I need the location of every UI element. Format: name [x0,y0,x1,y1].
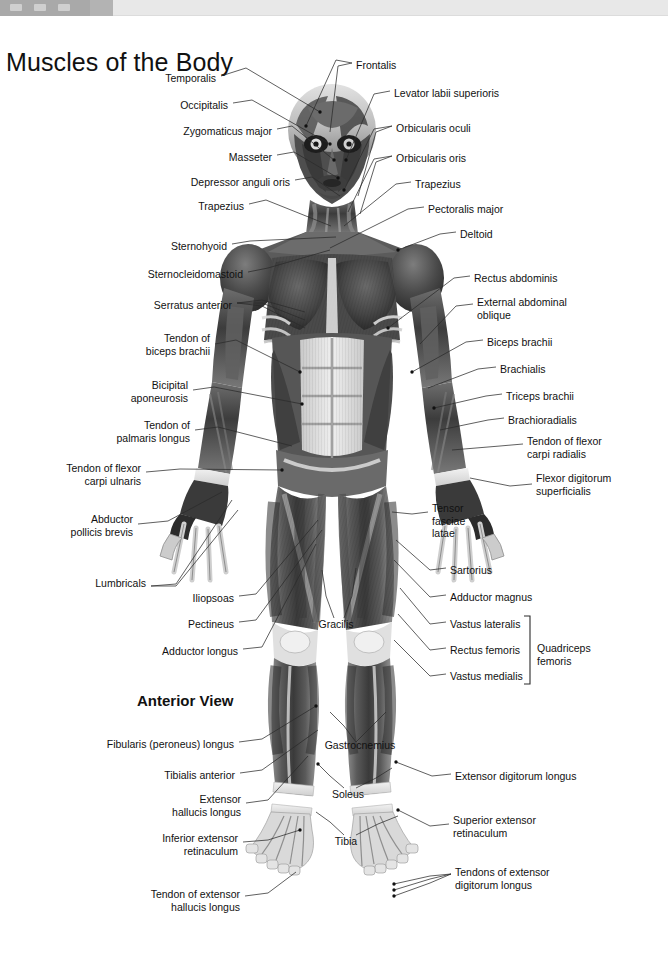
label-pectoralis-major: Pectoralis major [428,203,558,216]
label-brachioradialis: Brachioradialis [508,414,628,427]
titlebar-secondary-tab[interactable] [90,0,113,16]
label-inferior-extensor-retinaculum: Inferior extensor retinaculum [128,832,238,857]
label-tibia: Tibia [322,835,370,848]
page-root: Muscles of the Body Anterior View [0,0,668,968]
label-tendon-of-extensor-hallucis-longus: Tendon of extensor hallucis longus [120,888,240,913]
toolbar-glyph-icon[interactable] [58,4,70,11]
label-fibularis-peroneus-longus: Fibularis (peroneus) longus [84,738,234,751]
label-tendon-of-biceps-brachii: Tendon of biceps brachii [110,332,210,357]
toolbar-glyph-icon[interactable] [10,4,22,11]
label-lumbricals: Lumbricals [66,577,146,590]
label-tendon-of-palmaris-longus: Tendon of palmaris longus [80,419,190,444]
label-abductor-pollicis-brevis: Abductor pollicis brevis [43,513,133,538]
label-gracilis: Gracilis [306,618,366,631]
label-soleus: Soleus [320,788,376,801]
label-bicipital-aponeurosis: Bicipital aponeurosis [98,379,188,404]
label-brachialis: Brachialis [500,363,610,376]
label-levator-labii-superioris: Levator labii superioris [394,87,554,100]
label-vastus-medialis: Vastus medialis [450,670,570,683]
label-superior-extensor-retinaculum: Superior extensor retinaculum [453,814,593,839]
label-trapezius-right: Trapezius [415,178,525,191]
label-triceps-brachii: Triceps brachii [506,390,626,403]
label-pectineus: Pectineus [164,618,234,631]
label-sternohyoid: Sternohyoid [127,240,227,253]
label-sternocleidomastoid: Sternocleidomastoid [103,268,243,281]
label-serratus-anterior: Serratus anterior [122,299,232,312]
torso-region [220,232,444,497]
label-flexor-digitorum-superficialis: Flexor digitorum superficialis [536,472,666,497]
label-tendons-of-extensor-digitorum-longus: Tendons of extensor digitorum longus [455,866,605,891]
label-tendon-of-flexor-carpi-radialis: Tendon of flexor carpi radialis [527,435,657,460]
label-tibialis-anterior: Tibialis anterior [145,769,235,782]
label-gastrocnemius: Gastrocnemius [312,739,408,752]
label-zygomaticus-major: Zygomaticus major [152,125,272,138]
label-adductor-longus: Adductor longus [138,645,238,658]
head-region [288,84,376,234]
label-trapezius-left: Trapezius [154,200,244,213]
label-vastus-lateralis: Vastus lateralis [450,618,570,631]
leg-region-right [338,486,418,875]
label-sartorius: Sartorius [450,564,560,577]
label-deltoid: Deltoid [460,228,560,241]
label-adductor-magnus: Adductor magnus [450,591,580,604]
titlebar-divider [113,15,668,16]
label-occipitalis: Occipitalis [128,99,228,112]
label-external-abdominal-oblique: External abdominal oblique [477,296,627,321]
toolbar-glyph-icon[interactable] [34,4,46,11]
label-tensor-fasciae-latae: Tensor fasciae latae [432,502,512,540]
label-orbicularis-oculi: Orbicularis oculi [396,122,526,135]
quadriceps-line1: Quadriceps [537,642,591,654]
label-frontalis: Frontalis [356,59,476,72]
label-masseter: Masseter [182,151,272,164]
label-biceps-brachii: Biceps brachii [487,336,607,349]
label-extensor-digitorum-longus: Extensor digitorum longus [455,770,635,783]
label-iliopsoas: Iliopsoas [164,592,234,605]
quadriceps-line2: femoris [537,655,571,667]
label-extensor-hallucis-longus: Extensor hallucis longus [141,793,241,818]
label-depressor-anguli-oris: Depressor anguli oris [150,176,290,189]
label-orbicularis-oris: Orbicularis oris [396,152,526,165]
label-quadriceps-femoris: Quadricepsfemoris [537,642,627,667]
label-rectus-abdominis: Rectus abdominis [474,272,614,285]
leg-region-left [246,486,326,875]
window-titlebar [0,0,668,16]
label-tendon-of-flexor-carpi-ulnaris: Tendon of flexor carpi ulnaris [41,462,141,487]
label-temporalis: Temporalis [116,72,216,85]
